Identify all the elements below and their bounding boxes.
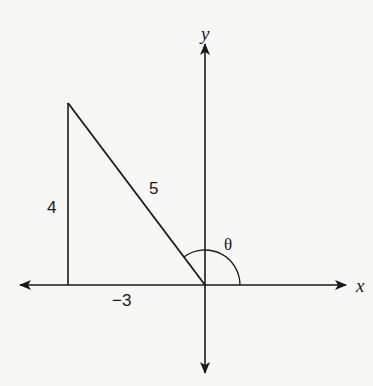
coordinate-diagram bbox=[0, 0, 373, 386]
hypotenuse bbox=[68, 103, 205, 285]
reference-triangle bbox=[68, 103, 205, 285]
x-axis-label: x bbox=[356, 276, 364, 295]
vertical-leg-label: 4 bbox=[47, 199, 56, 216]
y-axis-label: y bbox=[201, 24, 209, 43]
horizontal-leg-label: −3 bbox=[112, 292, 131, 309]
hypotenuse-label: 5 bbox=[149, 180, 158, 197]
theta-label: θ bbox=[224, 236, 232, 253]
